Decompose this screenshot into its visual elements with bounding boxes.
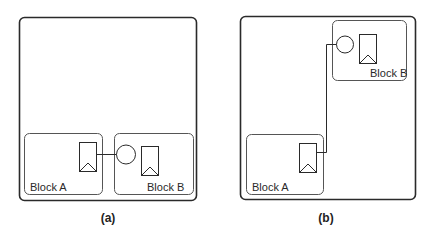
block-a: Block A xyxy=(247,135,324,195)
chip-outline xyxy=(241,17,416,200)
buffer-circle-icon xyxy=(337,36,354,53)
wire xyxy=(317,45,337,153)
chip-outline xyxy=(20,18,197,201)
flip-flop-icon xyxy=(360,35,377,64)
block-b-label: Block B xyxy=(147,181,184,193)
diagram-canvas: Block A Block B (a) Block B xyxy=(0,0,433,234)
block-a-label: Block A xyxy=(252,181,289,193)
flip-flop-icon xyxy=(142,147,159,176)
block-b: Block B xyxy=(115,134,194,195)
block-b: Block B xyxy=(333,21,408,81)
buffer-circle-icon xyxy=(117,145,136,164)
panel-a: Block A Block B (a) xyxy=(20,18,197,226)
flip-flop-icon xyxy=(80,143,97,172)
block-a: Block A xyxy=(25,134,103,195)
panel-b: Block B Block A (b) xyxy=(241,17,416,226)
caption-a: (a) xyxy=(101,211,116,225)
block-a-label: Block A xyxy=(30,181,67,193)
caption-b: (b) xyxy=(318,211,333,225)
flip-flop-icon xyxy=(300,144,317,173)
block-b-label: Block B xyxy=(370,67,407,79)
